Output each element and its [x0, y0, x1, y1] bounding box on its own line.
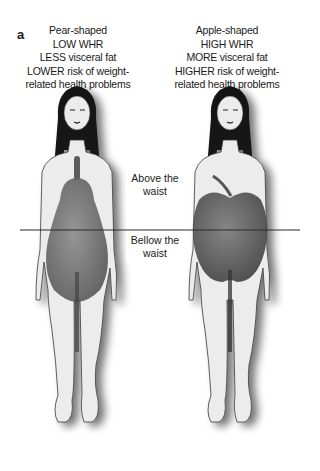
below-waist-label: Bellow the waist — [128, 234, 182, 260]
face — [217, 96, 243, 130]
apple-fruit — [193, 192, 268, 282]
pear-figure — [36, 86, 117, 422]
face — [64, 96, 90, 130]
below-waist-line2: waist — [128, 247, 182, 260]
above-waist-line2: waist — [128, 185, 182, 198]
pear-stem — [74, 156, 80, 180]
above-waist-label: Above the waist — [128, 172, 182, 198]
below-waist-line1: Bellow the — [128, 234, 182, 247]
above-waist-line1: Above the — [128, 172, 182, 185]
apple-figure — [189, 86, 270, 422]
